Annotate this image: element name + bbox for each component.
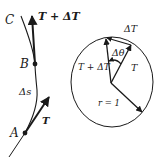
label-delta-s: Δs	[18, 86, 31, 97]
point-b	[33, 62, 38, 67]
label-t-left: T	[42, 115, 51, 126]
label-t-right: T	[131, 62, 138, 73]
angle-arc-delta-theta	[109, 60, 121, 64]
diagram-canvas: C T + ΔT B Δs T A ΔT Δθ T + ΔT T r = 1	[0, 0, 161, 166]
point-a	[23, 131, 28, 136]
label-a: A	[9, 126, 19, 140]
label-delta-t: ΔT	[123, 23, 138, 34]
curve-panel: C T + ΔT B Δs T A	[5, 10, 81, 157]
label-t-plus-dt-left: T + ΔT	[38, 10, 81, 23]
label-c: C	[5, 13, 14, 27]
unit-circle-panel: ΔT Δθ T + ΔT T r = 1	[71, 23, 153, 127]
label-b: B	[19, 57, 29, 71]
label-delta-theta: Δθ	[111, 47, 125, 58]
label-radius: r = 1	[98, 98, 120, 108]
space-curve	[21, 16, 37, 133]
label-t-plus-dt-right: T + ΔT	[78, 62, 111, 72]
vector-delta-t	[107, 38, 131, 45]
